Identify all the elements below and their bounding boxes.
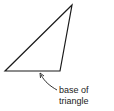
triangle-shape (5, 5, 72, 71)
annotation-arrow (41, 75, 57, 90)
annotation-label-line2: triangle (59, 96, 89, 106)
annotation-label-line1: base of (59, 85, 89, 95)
triangle-diagram: base of triangle (0, 0, 114, 111)
